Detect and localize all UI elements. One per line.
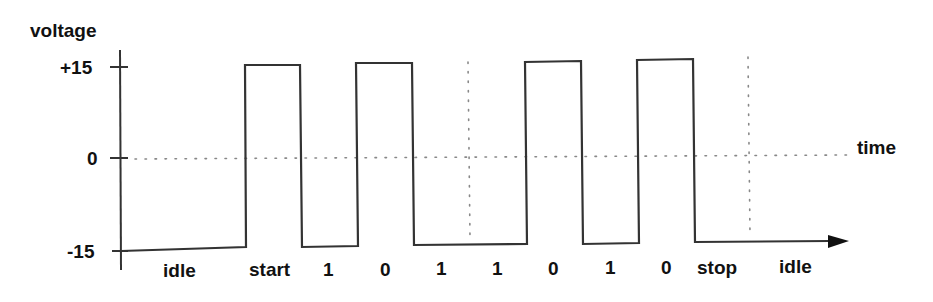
signal-waveform	[121, 59, 830, 251]
tick-label-plus15: +15	[60, 57, 93, 78]
time-arrow-icon	[828, 235, 849, 248]
x-axis-title: time	[857, 137, 896, 158]
waveform-diagram: voltage +15 0 -15 time idle start 1 0 1 …	[0, 0, 933, 302]
bit-label-2: 0	[380, 259, 391, 280]
zero-dotted-line	[135, 155, 848, 159]
bit-label-6: 1	[605, 257, 616, 278]
frame-marker-dotted-line	[468, 62, 470, 238]
tick-label-zero: 0	[87, 148, 98, 169]
bit-label-idle-start: idle	[163, 260, 196, 281]
bit-label-3: 1	[436, 258, 447, 279]
stop-marker-dotted-line	[748, 57, 750, 235]
bit-label-stop: stop	[697, 257, 737, 278]
bit-label-4: 1	[492, 258, 503, 279]
bit-label-start: start	[249, 259, 291, 280]
tick-label-minus15: -15	[67, 241, 95, 262]
bit-label-idle-end: idle	[779, 256, 812, 277]
y-axis-title: voltage	[30, 20, 97, 41]
y-axis-line	[120, 50, 121, 270]
bit-label-5: 0	[548, 258, 559, 279]
bit-label-1: 1	[323, 259, 334, 280]
bit-label-7: 0	[661, 257, 672, 278]
